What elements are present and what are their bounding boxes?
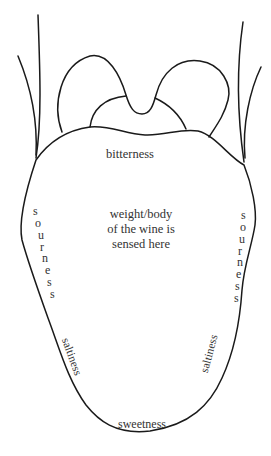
epiglottis-inner-arc-right bbox=[155, 98, 186, 129]
label-weight-body: weight/body of the wine is sensed here bbox=[96, 207, 186, 252]
right-throat-strand-inner bbox=[239, 22, 244, 162]
label-center-line3: sensed here bbox=[96, 237, 186, 252]
sourness-right-letter: s bbox=[234, 292, 239, 304]
right-throat-strand-outer bbox=[244, 67, 261, 158]
left-throat-strand-outer bbox=[18, 56, 36, 155]
label-sweetness: sweetness bbox=[118, 418, 166, 430]
label-sourness-left: s o u r n e s s bbox=[30, 205, 60, 305]
tongue-taste-diagram: bitterness weight/body of the wine is se… bbox=[0, 0, 271, 456]
label-center-line2: of the wine is bbox=[96, 222, 186, 237]
epiglottis-lobes bbox=[58, 56, 229, 137]
sourness-left-letter: s bbox=[50, 288, 55, 300]
label-sourness-right: s o u r n e s s bbox=[220, 209, 250, 309]
label-center-line1: weight/body bbox=[96, 207, 186, 222]
label-bitterness: bitterness bbox=[106, 148, 154, 161]
epiglottis-inner-arc bbox=[90, 96, 126, 127]
